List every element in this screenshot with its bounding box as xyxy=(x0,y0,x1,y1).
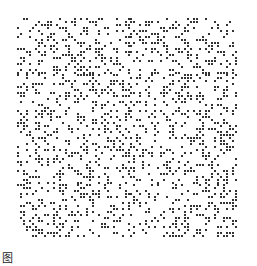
figure-caption-cropped: 图 xyxy=(2,252,255,266)
binary-grid-image xyxy=(17,18,238,238)
random-dot-pattern-figure xyxy=(17,18,238,238)
